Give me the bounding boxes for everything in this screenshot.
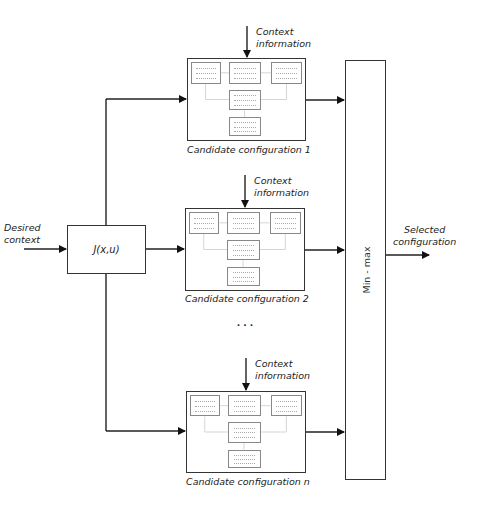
desired-context-line1: Desired — [4, 222, 41, 234]
sub-block — [229, 62, 261, 84]
context-line2: information — [254, 187, 309, 199]
selected-line1: Selected — [393, 224, 456, 236]
sub-block — [189, 212, 219, 234]
context-info-label-2: Context information — [254, 175, 309, 199]
context-line1: Context — [256, 26, 311, 38]
candidate-configuration-n — [186, 391, 306, 473]
min-max-label: Min - max — [360, 246, 371, 293]
context-info-label-n: Context information — [255, 358, 310, 382]
context-line2: information — [255, 370, 310, 382]
min-max-block: Min - max — [345, 60, 386, 480]
context-line1: Context — [254, 175, 309, 187]
candidate-configuration-1 — [187, 58, 306, 141]
context-line1: Context — [255, 358, 310, 370]
sub-block — [190, 395, 220, 416]
sub-block — [227, 267, 259, 286]
desired-context-line2: context — [4, 234, 41, 246]
cost-function-block: J(x,u) — [67, 225, 146, 274]
candidate-caption-2: Candidate configuration 2 — [185, 293, 305, 304]
desired-context-label: Desired context — [4, 222, 41, 246]
sub-block — [191, 62, 221, 84]
selected-configuration-label: Selected configuration — [393, 224, 456, 248]
sub-block — [227, 240, 259, 261]
candidate-caption-1: Candidate configuration 1 — [187, 144, 306, 155]
sub-block — [271, 62, 302, 84]
sub-block — [270, 212, 301, 234]
selected-line2: configuration — [393, 236, 456, 248]
sub-block — [229, 90, 261, 111]
candidate-configuration-2 — [185, 208, 305, 291]
ellipsis: . . . — [225, 318, 265, 328]
sub-block — [271, 395, 302, 416]
context-info-label-1: Context information — [256, 26, 311, 50]
sub-block — [227, 212, 259, 234]
sub-block — [228, 450, 260, 469]
sub-block — [229, 117, 261, 136]
sub-block — [228, 395, 260, 416]
cost-function-label: J(x,u) — [93, 244, 119, 255]
context-line2: information — [256, 38, 311, 50]
candidate-caption-n: Candidate configuration n — [186, 476, 306, 487]
sub-block — [228, 422, 260, 442]
